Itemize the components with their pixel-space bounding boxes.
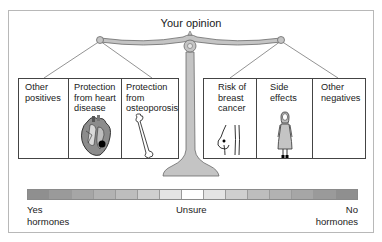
cell-label: Other negatives xyxy=(321,82,360,103)
cell-breast-cancer-risk: Risk of breast cancer xyxy=(204,79,257,158)
label-unsure: Unsure xyxy=(176,204,207,216)
scale-segment-4[interactable] xyxy=(94,190,116,199)
scale-segment-8[interactable] xyxy=(182,190,204,199)
scale-segment-14[interactable] xyxy=(314,190,336,199)
cell-label: Protection from heart disease xyxy=(74,82,116,113)
cell-label: Risk of breast cancer xyxy=(218,82,246,113)
label-line: hormones xyxy=(27,216,69,228)
label-line: hormones xyxy=(316,216,358,228)
cell-label: Side effects xyxy=(270,82,297,103)
cell-side-effects: Side effects xyxy=(257,79,313,158)
cell-label: Protection from osteoporosis xyxy=(126,82,178,113)
scale-segment-11[interactable] xyxy=(248,190,270,199)
cell-label: Other positives xyxy=(25,82,61,103)
cell-heart-protection: Protection from heart disease xyxy=(69,79,122,158)
woman-figure-icon xyxy=(275,111,295,159)
opinion-scale-bar[interactable] xyxy=(27,189,358,200)
scale-segment-13[interactable] xyxy=(292,190,314,199)
scale-segment-1[interactable] xyxy=(28,190,50,199)
scale-segment-5[interactable] xyxy=(116,190,138,199)
heart-icon xyxy=(78,115,114,157)
cell-other-negatives: Other negatives xyxy=(313,79,365,158)
scale-segment-10[interactable] xyxy=(226,190,248,199)
scale-segment-12[interactable] xyxy=(270,190,292,199)
scale-segment-2[interactable] xyxy=(50,190,72,199)
cell-other-positives: Other positives xyxy=(19,79,69,158)
breast-icon xyxy=(214,123,244,157)
scale-segment-6[interactable] xyxy=(138,190,160,199)
label-line: No xyxy=(316,204,358,216)
scale-segment-9[interactable] xyxy=(204,190,226,199)
scale-segment-3[interactable] xyxy=(72,190,94,199)
label-no-hormones: No hormones xyxy=(316,204,358,228)
left-pan-positives: Other positives Protection from heart di… xyxy=(18,78,179,159)
label-yes-hormones: Yes hormones xyxy=(27,204,69,228)
scale-segment-15[interactable] xyxy=(336,190,357,199)
label-line: Yes xyxy=(27,204,69,216)
scale-segment-7[interactable] xyxy=(160,190,182,199)
bone-icon xyxy=(132,113,156,159)
right-pan-negatives: Risk of breast cancer Side effects Other… xyxy=(203,78,366,159)
cell-osteoporosis-protection: Protection from osteoporosis xyxy=(122,79,178,158)
